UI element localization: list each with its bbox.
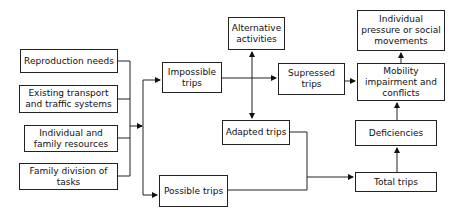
node-label: Deficiencies <box>369 128 424 139</box>
node-supressed-trips: Supressed trips <box>278 63 345 95</box>
node-family-division-tasks: Family division of tasks <box>19 163 118 190</box>
node-mobility-impairment: Mobility impairment and conflicts <box>357 63 445 101</box>
node-label: Supressed trips <box>281 68 342 90</box>
node-label: Existing transport and traffic systems <box>22 88 115 110</box>
node-deficiencies: Deficiencies <box>355 120 437 146</box>
node-adapted-trips: Adapted trips <box>222 120 290 145</box>
node-label: Family division of tasks <box>22 166 115 188</box>
node-label: Alternative activities <box>231 23 282 45</box>
node-label: Individual pressure or social movements <box>360 14 442 47</box>
node-possible-trips: Possible trips <box>159 175 228 207</box>
node-label: Adapted trips <box>226 127 287 138</box>
node-label: Reproduction needs <box>24 56 114 67</box>
node-impossible-trips: Impossible trips <box>162 62 222 93</box>
node-individual-family-resources: Individual and family resources <box>24 125 118 152</box>
node-label: Possible trips <box>164 186 223 197</box>
node-label: Individual and family resources <box>27 128 115 150</box>
node-label: Impossible trips <box>165 67 219 89</box>
node-label: Total trips <box>374 177 418 188</box>
node-existing-transport: Existing transport and traffic systems <box>19 85 118 113</box>
node-total-trips: Total trips <box>355 172 437 192</box>
node-reproduction-needs: Reproduction needs <box>20 49 118 73</box>
node-alternative-activities: Alternative activities <box>228 17 285 50</box>
node-individual-pressure: Individual pressure or social movements <box>357 10 445 51</box>
node-label: Mobility impairment and conflicts <box>360 66 442 99</box>
